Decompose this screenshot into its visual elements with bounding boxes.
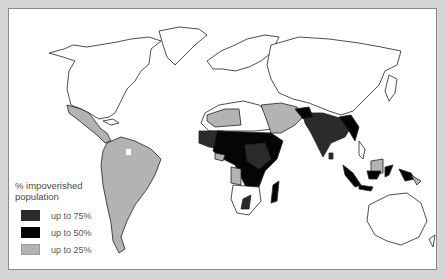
sumatra: [343, 165, 361, 187]
map-frame: % impoverished population up to 75% up t…: [8, 8, 437, 270]
north-america: [49, 37, 161, 119]
australia: [367, 193, 427, 245]
swatch-50: [21, 227, 40, 238]
legend-label-25: up to 25%: [51, 245, 92, 255]
legend-item-50: up to 50%: [15, 224, 92, 241]
legend-item-75: up to 75%: [15, 207, 92, 224]
asia: [267, 37, 401, 115]
legend-label-50: up to 50%: [51, 228, 92, 238]
japan: [385, 75, 397, 101]
png: [411, 175, 421, 185]
legend-title-line2: population: [15, 191, 92, 202]
swatch-25: [21, 244, 40, 255]
legend-title: % impoverished population: [15, 180, 92, 202]
legend-title-line1: % impoverished: [15, 180, 92, 191]
sri-lanka: [329, 153, 333, 159]
madagascar: [271, 181, 279, 203]
legend-item-25: up to 25%: [15, 241, 92, 258]
angola-25: [231, 167, 241, 185]
sulawesi: [385, 165, 393, 177]
greenland: [159, 27, 207, 65]
map-legend: % impoverished population up to 75% up t…: [15, 180, 92, 258]
new-guinea: [399, 169, 415, 181]
caribbean: [103, 119, 119, 125]
legend-label-75: up to 75%: [51, 211, 92, 221]
borneo-south: [367, 171, 381, 179]
malay-peninsula: [359, 141, 365, 159]
new-zealand: [429, 235, 435, 247]
java: [359, 185, 373, 191]
guiana-white: [126, 149, 131, 155]
swatch-75: [21, 210, 40, 221]
